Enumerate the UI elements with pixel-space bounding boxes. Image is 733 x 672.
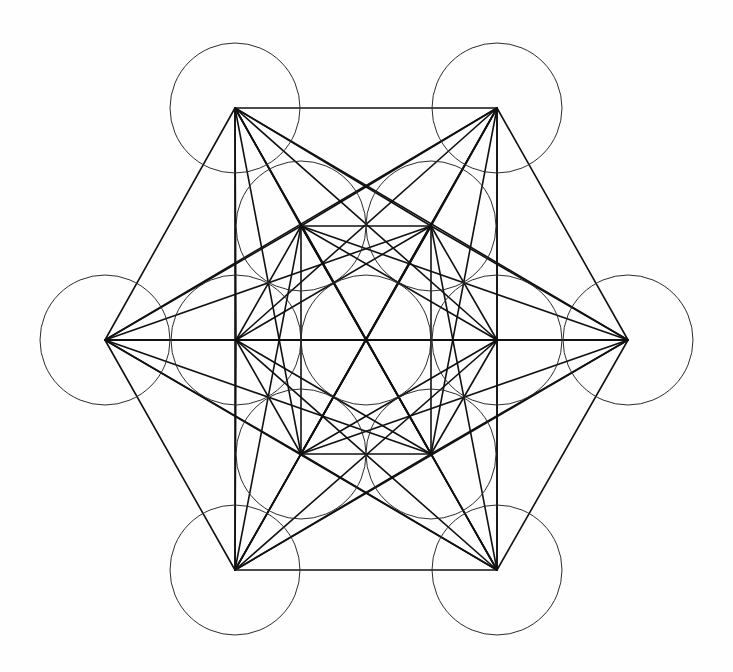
canvas-background — [0, 0, 733, 672]
metatrons-cube-figure — [0, 0, 733, 672]
sacred-geometry-canvas — [0, 0, 733, 672]
